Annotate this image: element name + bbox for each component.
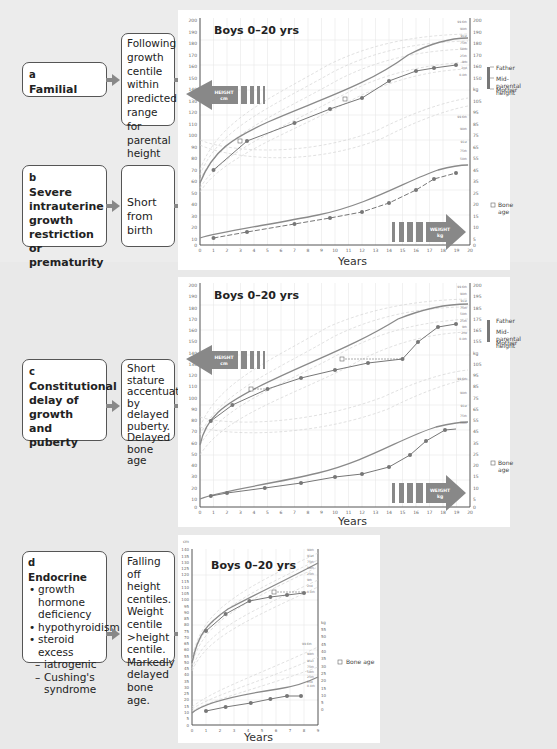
svg-text:2: 2 (219, 728, 222, 733)
svg-text:10: 10 (191, 497, 197, 502)
desc-endocrine: Falling off height centiles. Weight cent… (121, 551, 175, 663)
svg-text:98th: 98th (307, 652, 314, 656)
svg-text:HEIGHT: HEIGHT (214, 90, 234, 95)
svg-text:98th: 98th (460, 27, 467, 31)
svg-text:180: 180 (188, 41, 197, 46)
chart-svg: 200190180170160 150140130120110 10090807… (178, 10, 510, 270)
svg-text:2nd: 2nd (307, 584, 313, 588)
svg-text:2: 2 (226, 510, 229, 515)
svg-text:50: 50 (191, 191, 197, 196)
chart-svg: 200190180170160 150140130120110 10090807… (178, 277, 510, 527)
svg-text:WEIGHT: WEIGHT (430, 227, 451, 232)
legend-father: Father (496, 317, 515, 324)
svg-text:30: 30 (321, 664, 327, 669)
label-b: b (29, 171, 100, 185)
arrow-icon (112, 74, 120, 86)
svg-text:50: 50 (321, 634, 327, 639)
list-item: growth hormone deficiency (38, 583, 101, 621)
svg-text:12: 12 (359, 248, 365, 253)
svg-text:kg: kg (321, 620, 326, 625)
svg-text:91st: 91st (460, 140, 467, 144)
svg-text:100: 100 (181, 597, 189, 602)
svg-text:40: 40 (321, 649, 327, 654)
svg-text:cm: cm (183, 539, 189, 544)
svg-text:30: 30 (184, 685, 190, 690)
arrow-icon (112, 400, 120, 412)
svg-text:45: 45 (321, 642, 327, 647)
chart-title: Boys 0–20 yrs (214, 289, 299, 302)
svg-text:0.4th: 0.4th (307, 590, 315, 594)
svg-text:9: 9 (317, 728, 320, 733)
svg-text:180: 180 (188, 306, 197, 311)
svg-text:9th: 9th (462, 325, 467, 329)
svg-text:100: 100 (188, 396, 197, 401)
svg-text:10: 10 (191, 237, 197, 242)
svg-text:0: 0 (191, 728, 194, 733)
svg-text:98th: 98th (460, 292, 467, 296)
svg-text:7: 7 (289, 728, 292, 733)
svg-text:10: 10 (321, 693, 327, 698)
svg-text:60: 60 (191, 179, 197, 184)
svg-text:3: 3 (239, 248, 242, 253)
svg-text:0: 0 (199, 510, 202, 515)
list-item: hypothyroidism (38, 621, 101, 634)
svg-text:25th: 25th (460, 319, 467, 323)
svg-text:kg: kg (437, 233, 443, 238)
title-familial: Familial (29, 83, 77, 96)
svg-text:19: 19 (454, 248, 460, 253)
title-line: delay of (29, 394, 100, 408)
svg-text:190: 190 (473, 30, 482, 35)
svg-text:16: 16 (413, 510, 419, 515)
svg-text:75: 75 (473, 133, 479, 138)
svg-text:15: 15 (400, 510, 406, 515)
svg-text:190: 190 (188, 294, 197, 299)
svg-text:120: 120 (181, 572, 189, 577)
svg-text:98th: 98th (460, 391, 467, 395)
svg-text:95: 95 (473, 110, 479, 115)
svg-text:91st: 91st (307, 659, 314, 663)
svg-text:WEIGHT: WEIGHT (430, 488, 451, 493)
svg-text:99.6th: 99.6th (457, 285, 467, 289)
title-iugr: Severe intrauterine growth restriction o… (29, 186, 104, 269)
svg-text:20: 20 (473, 202, 479, 207)
title-line: Constitutional (29, 380, 100, 394)
svg-text:20: 20 (191, 486, 197, 491)
svg-text:200: 200 (473, 283, 482, 288)
legend-bone-age: Bone age (498, 459, 513, 473)
svg-text:5: 5 (266, 248, 269, 253)
svg-text:98th: 98th (460, 127, 467, 131)
svg-text:13: 13 (373, 248, 379, 253)
svg-text:75th: 75th (460, 414, 467, 418)
svg-text:16: 16 (413, 248, 419, 253)
svg-text:85: 85 (473, 384, 479, 389)
svg-text:7: 7 (293, 510, 296, 515)
svg-text:25th: 25th (307, 675, 314, 679)
svg-text:25: 25 (184, 691, 190, 696)
svg-text:35: 35 (473, 441, 479, 446)
svg-text:0: 0 (473, 505, 476, 510)
svg-text:14: 14 (386, 248, 392, 253)
svg-text:90: 90 (191, 145, 197, 150)
svg-text:100: 100 (188, 133, 197, 138)
svg-text:9th: 9th (462, 60, 467, 64)
list-item: Cushing's syndrome (38, 671, 101, 696)
svg-text:60: 60 (191, 441, 197, 446)
svg-text:5: 5 (473, 237, 476, 242)
svg-text:55: 55 (473, 418, 479, 423)
svg-text:65: 65 (473, 145, 479, 150)
svg-text:kg: kg (473, 351, 479, 356)
x-axis-label: Years (244, 731, 273, 744)
svg-text:0.4th: 0.4th (307, 684, 315, 688)
svg-text:40: 40 (191, 463, 197, 468)
svg-text:135: 135 (181, 554, 189, 559)
svg-text:55: 55 (321, 627, 327, 632)
svg-text:5: 5 (473, 497, 476, 502)
svg-text:0.4th: 0.4th (459, 73, 467, 77)
title-line: puberty (29, 436, 100, 450)
svg-text:85: 85 (184, 616, 190, 621)
svg-text:25th: 25th (307, 572, 314, 576)
title-endocrine: Endocrine (28, 571, 101, 584)
desc-familial: Following growth centile within predicte… (121, 33, 175, 126)
svg-text:18: 18 (440, 510, 446, 515)
svg-text:75th: 75th (307, 665, 314, 669)
